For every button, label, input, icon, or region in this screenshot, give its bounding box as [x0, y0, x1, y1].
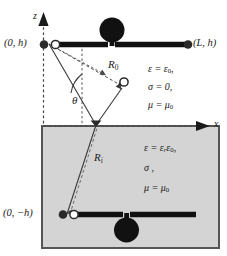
upper-left-terminal-open — [51, 40, 59, 48]
upper-medium-conductivity: σ = 0, — [148, 82, 172, 92]
lower-left-terminal-open — [70, 210, 78, 218]
ray-label-Ri: Ri — [94, 152, 103, 164]
z-axis-label: z — [33, 11, 37, 21]
angle-label-theta: θ — [72, 95, 77, 106]
upper-medium-permittivity: ε = ε0, — [148, 64, 174, 75]
lower-medium-permittivity: ε = εrε0, — [144, 143, 176, 154]
antenna-halfspace-diagram: (0, h) (L, h) (0, −h) z x R0 Ri θ ε = ε0… — [0, 0, 227, 256]
upper-medium-permeability: μ = μ0 — [148, 100, 173, 111]
coordinate-label-top-left: (0, h) — [4, 38, 27, 49]
upper-antenna-feed-stub — [110, 38, 115, 46]
coordinate-label-bottom-left: (0, −h) — [3, 208, 33, 219]
theta-arc — [71, 74, 82, 93]
ray-to-interface — [49, 44, 96, 125]
lower-antenna-feed — [114, 218, 139, 243]
z-axis-arrowhead — [38, 12, 48, 26]
lower-left-terminal-filled — [59, 210, 68, 219]
observation-point-marker — [120, 78, 128, 86]
coordinate-label-top-right: (L, h) — [193, 38, 216, 49]
upper-right-terminal — [184, 40, 193, 49]
x-axis-label: x — [214, 119, 218, 129]
image-ray-Ri-upper — [96, 88, 122, 125]
lower-medium-conductivity: σ , — [144, 163, 154, 173]
ray-label-R0: R0 — [108, 59, 118, 71]
lower-medium-permeability: μ = μ0 — [144, 183, 169, 194]
upper-left-terminal-filled — [40, 40, 49, 49]
